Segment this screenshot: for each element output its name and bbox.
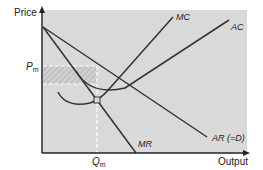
pm-label: Pm xyxy=(26,61,39,73)
qm-label: Qm xyxy=(92,156,106,168)
ar-label: AR (=D) xyxy=(211,133,245,143)
mr-label: MR xyxy=(138,139,152,149)
mc-mr-intersection-marker xyxy=(94,97,100,103)
profit-area xyxy=(43,66,97,84)
ac-label: AC xyxy=(230,22,244,32)
x-axis-label: Output xyxy=(218,156,248,167)
y-axis-arrow-icon xyxy=(39,6,45,13)
monopoly-diagram: Price Output MC AC MR AR (=D) Pm Qm xyxy=(0,0,263,170)
y-axis-label: Price xyxy=(14,7,37,18)
mc-label: MC xyxy=(176,12,190,22)
